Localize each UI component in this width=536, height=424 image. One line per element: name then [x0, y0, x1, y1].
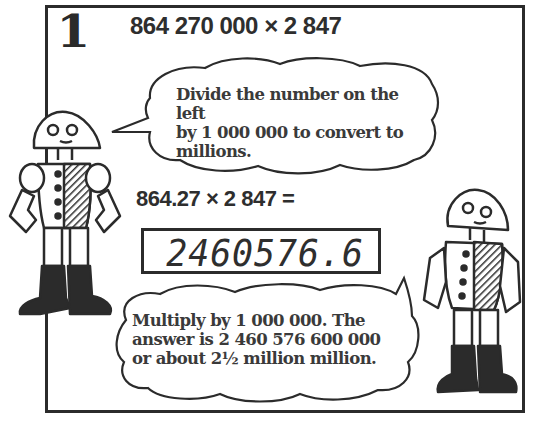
bubble-line: answer is 2 460 576 600 000	[132, 331, 402, 350]
calculator-display: 2460576.6	[141, 228, 381, 274]
robot-character-icon	[0, 108, 130, 333]
bubble-line: Multiply by 1 000 000. The	[132, 312, 402, 331]
bubble-line: Divide the number on the left	[176, 86, 416, 124]
equation: 864.27 × 2 847 =	[136, 186, 294, 212]
bubble-line: millions.	[176, 143, 416, 162]
speech-bubble-bottom-text: Multiply by 1 000 000. The answer is 2 4…	[132, 312, 402, 369]
speech-bubble-top-text: Divide the number on the left by 1 000 0…	[176, 86, 416, 162]
robot-character-icon	[408, 182, 533, 407]
bubble-line: by 1 000 000 to convert to	[176, 124, 416, 143]
calculator-display-value: 2460576.6	[166, 231, 364, 275]
bubble-line: or about 2½ million million.	[132, 350, 402, 369]
